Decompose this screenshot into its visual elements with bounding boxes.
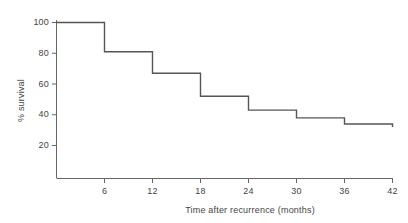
y-tick-label-20: 20 [24,140,49,150]
y-tick-label-100: 100 [24,17,49,27]
x-tick-label-24: 24 [237,186,261,196]
y-axis-title: % survival [16,79,26,122]
x-tick-label-30: 30 [285,186,309,196]
y-tick-label-40: 40 [24,109,49,119]
x-tick-label-6: 6 [93,186,117,196]
x-axis-title: Time after recurrence (months) [150,205,350,215]
x-tick-label-42: 42 [381,186,405,196]
y-tick-label-80: 80 [24,48,49,58]
y-tick-marks [52,23,57,146]
survival-chart: 100 80 60 40 20 6 12 18 24 30 36 42 % su… [0,0,408,223]
x-tick-label-36: 36 [333,186,357,196]
survival-step-curve [57,23,393,128]
x-tick-marks [105,179,393,184]
x-tick-label-12: 12 [141,186,165,196]
y-tick-label-60: 60 [24,79,49,89]
x-tick-label-18: 18 [189,186,213,196]
